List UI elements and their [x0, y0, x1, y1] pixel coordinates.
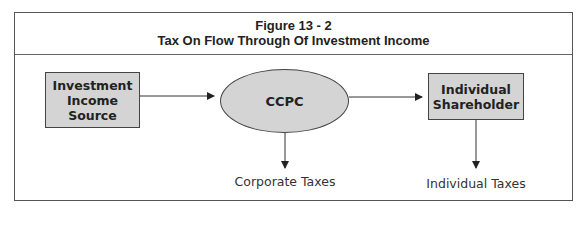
individual-shareholder-node: Individual Shareholder — [428, 73, 524, 120]
investment-income-source-node: Investment Income Source — [45, 72, 140, 128]
node-line: Source — [53, 108, 133, 123]
node-line: Investment — [53, 78, 133, 93]
corporate-taxes-label: Corporate Taxes — [235, 174, 336, 189]
node-line: Individual — [433, 82, 519, 97]
node-line: Shareholder — [433, 97, 519, 112]
individual-taxes-label: Individual Taxes — [426, 176, 525, 191]
node-line: Income — [53, 93, 133, 108]
ccpc-label: CCPC — [265, 94, 303, 109]
ccpc-node: CCPC — [220, 69, 349, 133]
